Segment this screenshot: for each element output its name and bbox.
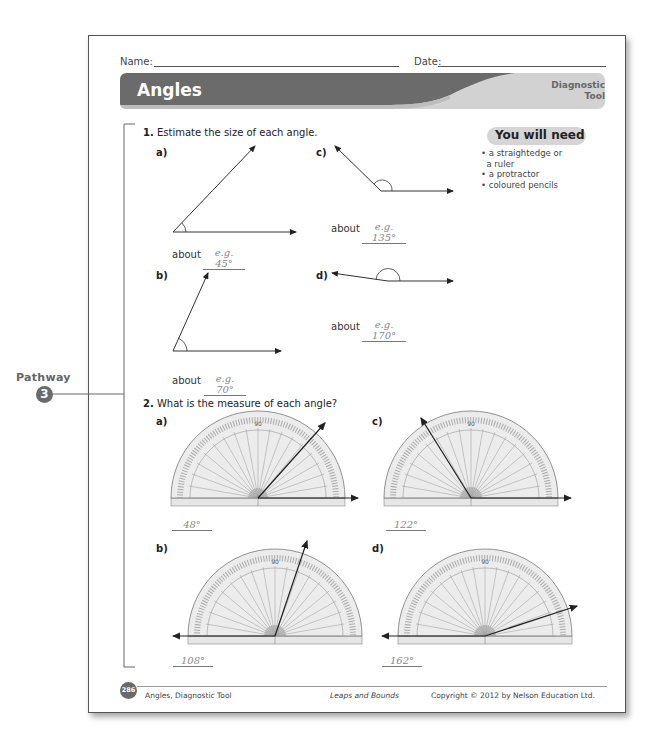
material-item: a ruler <box>481 159 562 170</box>
banner-subtitle: Diagnostic Tool <box>525 80 605 102</box>
q1-part-d-label: d) <box>316 270 328 281</box>
q1-part-b-label: b) <box>156 270 168 281</box>
q1-part-a-label: a) <box>156 147 167 158</box>
footer-left: Angles, Diagnostic Tool <box>145 691 232 700</box>
footer-divider <box>137 686 607 687</box>
q1-b-answer[interactable]: e.g. 70° <box>204 373 246 396</box>
question-number: 2. <box>143 398 154 409</box>
material-item: coloured pencils <box>481 180 562 191</box>
subtitle-line2: Tool <box>525 91 605 102</box>
date-field[interactable] <box>438 66 606 67</box>
q1-d-answer[interactable]: e.g. 170° <box>362 319 406 342</box>
pathway-number-badge: 3 <box>36 386 53 403</box>
q1-a-answer[interactable]: e.g. 45° <box>203 247 245 270</box>
q1-c-answer[interactable]: e.g. 135° <box>362 221 406 244</box>
q1-b-about: about <box>172 375 201 386</box>
question-2: 2. What is the measure of each angle? <box>143 398 337 409</box>
name-label: Name: <box>120 56 153 67</box>
q1-d-about: about <box>331 321 360 332</box>
q2-d-answer[interactable]: 162° <box>382 655 422 667</box>
q2-part-d-label: d) <box>372 543 384 554</box>
q2-b-answer[interactable]: 108° <box>173 655 213 667</box>
material-item: a straightedge or <box>481 148 562 159</box>
page-number-badge: 286 <box>120 682 137 699</box>
question-number: 1. <box>143 127 154 138</box>
pathway-label: Pathway <box>16 371 71 384</box>
materials-list: a straightedge or a ruler a protractor c… <box>481 148 562 190</box>
q1-part-c-label: c) <box>316 147 327 158</box>
footer-copyright: Copyright © 2012 by Nelson Education Ltd… <box>431 691 595 700</box>
name-field[interactable] <box>154 66 399 67</box>
q2-part-c-label: c) <box>372 416 383 427</box>
footer-center: Leaps and Bounds <box>330 691 399 700</box>
subtitle-line1: Diagnostic <box>525 80 605 91</box>
q2-part-a-label: a) <box>156 416 167 427</box>
question-text: Estimate the size of each angle. <box>157 127 318 138</box>
material-item: a protractor <box>481 169 562 180</box>
q1-a-about: about <box>172 249 201 260</box>
you-will-need-title: You will need <box>495 128 585 142</box>
question-1: 1. Estimate the size of each angle. <box>143 127 318 138</box>
page-title: Angles <box>137 80 202 100</box>
q1-c-about: about <box>331 223 360 234</box>
question-text: What is the measure of each angle? <box>157 398 337 409</box>
q2-c-answer[interactable]: 122° <box>386 519 426 531</box>
q2-a-answer[interactable]: 48° <box>172 519 212 531</box>
q2-part-b-label: b) <box>156 543 168 554</box>
